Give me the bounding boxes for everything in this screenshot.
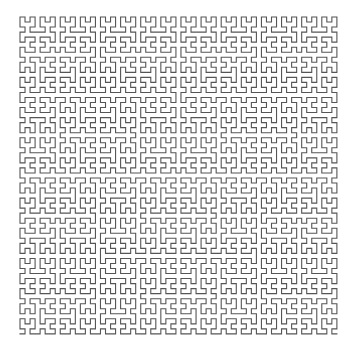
hilbert-curve-path [20, 17, 337, 334]
hilbert-curve-canvas [0, 0, 363, 357]
